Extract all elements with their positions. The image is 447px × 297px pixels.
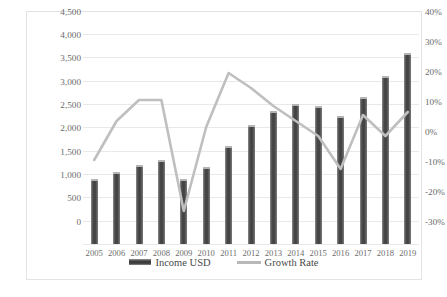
left-axis-tick: 500 bbox=[67, 194, 81, 203]
legend-item-growth-rate[interactable]: Growth Rate bbox=[237, 257, 319, 268]
plot-area bbox=[83, 34, 419, 244]
left-axis-tick: 3,000 bbox=[60, 78, 81, 87]
left-axis-tick: 1,000 bbox=[60, 171, 81, 180]
line-series-growth-rate bbox=[83, 34, 419, 244]
chart-legend: Income USD Growth Rate bbox=[26, 252, 422, 272]
right-axis-tick: -20% bbox=[425, 188, 445, 197]
legend-item-income-usd[interactable]: Income USD bbox=[129, 257, 210, 268]
left-axis-tick-labels: 05001,0001,5002,0002,5003,0003,5004,0004… bbox=[37, 12, 81, 244]
line-swatch-icon bbox=[237, 261, 261, 264]
left-axis-tick: 4,500 bbox=[60, 8, 81, 17]
left-axis-tick: 2,500 bbox=[60, 101, 81, 110]
left-axis-tick: 4,000 bbox=[60, 31, 81, 40]
right-axis-tick: 10% bbox=[425, 98, 442, 107]
right-axis-tick-labels: -30%-20%-10%0%10%20%30%40% bbox=[425, 12, 447, 244]
chart-container: 05001,0001,5002,0002,5003,0003,5004,0004… bbox=[26, 11, 422, 280]
right-axis-tick: 0% bbox=[425, 128, 437, 137]
right-axis-tick: -10% bbox=[425, 158, 445, 167]
right-axis-tick: 30% bbox=[425, 38, 442, 47]
left-axis-tick: 3,500 bbox=[60, 54, 81, 63]
left-axis-tick: 1,500 bbox=[60, 148, 81, 157]
left-axis-tick: 2,000 bbox=[60, 124, 81, 133]
legend-label-growth-rate: Growth Rate bbox=[265, 257, 319, 268]
left-axis-tick: 0 bbox=[76, 218, 81, 227]
right-axis-tick: 40% bbox=[425, 8, 442, 17]
gridline bbox=[83, 244, 419, 245]
right-axis-tick: -30% bbox=[425, 218, 445, 227]
legend-label-income-usd: Income USD bbox=[155, 257, 210, 268]
right-axis-tick: 20% bbox=[425, 68, 442, 77]
bar-swatch-icon bbox=[129, 259, 151, 265]
